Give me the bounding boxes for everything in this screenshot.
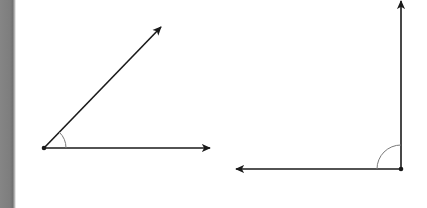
angle-arc: [59, 132, 66, 148]
acute-angle: [42, 27, 210, 150]
angles-figure: [0, 0, 427, 208]
right-angle: [236, 1, 403, 171]
vertex-point: [42, 146, 47, 151]
diagonal-ray: [44, 27, 161, 148]
angle-arc: [377, 145, 401, 169]
vertex-point: [399, 167, 404, 172]
